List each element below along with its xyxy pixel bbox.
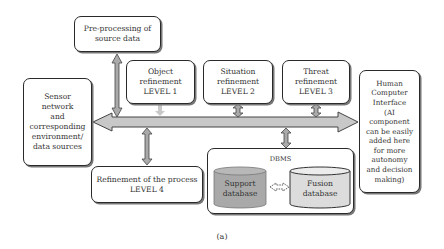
fusion-database-label: Fusion database bbox=[290, 179, 350, 199]
figure-caption: (a) bbox=[210, 232, 234, 242]
support-database-label: Support database bbox=[214, 179, 266, 199]
support-fusion-dashed-arrow bbox=[270, 183, 289, 191]
database-layer bbox=[0, 0, 444, 249]
